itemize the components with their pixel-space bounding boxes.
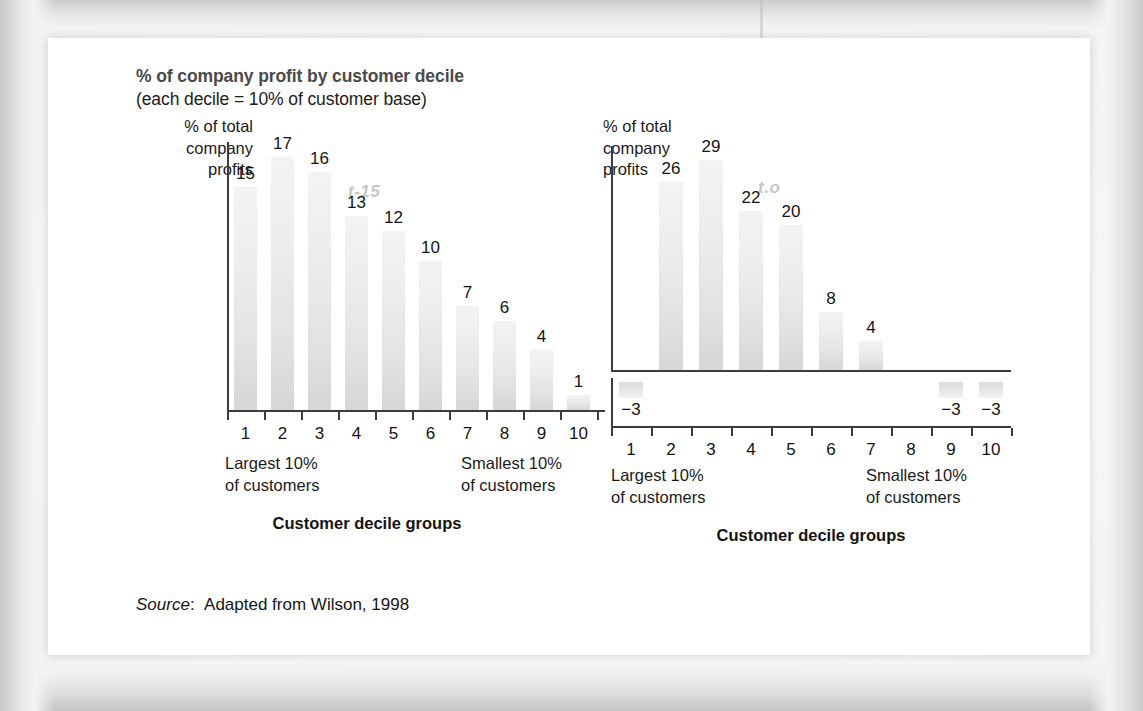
bar-slot: 1	[560, 142, 597, 410]
bar: 15	[234, 187, 257, 410]
caption-smallest-line-1: Smallest 10%	[461, 452, 562, 474]
axis-tick	[227, 412, 229, 420]
category-label: 3	[301, 424, 338, 444]
category-label: 3	[691, 440, 731, 460]
category-label: 8	[891, 440, 931, 460]
category-label: 1	[611, 440, 651, 460]
caption-largest-line-1: Largest 10%	[225, 452, 319, 474]
caption-smallest-left: Smallest 10% of customers	[461, 452, 562, 496]
bar: −3	[979, 382, 1004, 398]
axis-tick	[771, 428, 773, 436]
category-label: 4	[338, 424, 375, 444]
plot-area-left: 1517161312107641 12345678910	[227, 142, 597, 410]
caption-largest-left: Largest 10% of customers	[225, 452, 319, 496]
bar: 29	[699, 160, 724, 370]
bar-value-label: 1	[574, 372, 583, 392]
axis-tick	[338, 412, 340, 420]
category-label: 10	[560, 424, 597, 444]
bar-value-label: 13	[347, 193, 366, 213]
bar-series-right-positive: 2629222084	[611, 146, 1011, 370]
bar-value-label: 17	[273, 134, 292, 154]
bar-value-label: 8	[826, 289, 835, 309]
tick-row-right	[611, 428, 1011, 436]
axis-tick	[264, 412, 266, 420]
bar-slot: −3	[971, 372, 1011, 398]
category-label: 9	[523, 424, 560, 444]
category-label: 10	[971, 440, 1011, 460]
heading-line-2: (each decile = 10% of customer base)	[136, 88, 596, 111]
source-text: Adapted from Wilson, 1998	[204, 595, 409, 614]
caption-largest-line-2: of customers	[611, 486, 705, 508]
bar-slot	[891, 372, 931, 398]
category-label: 5	[771, 440, 811, 460]
bar-value-label: 6	[500, 298, 509, 318]
axis-tick	[811, 428, 813, 436]
axis-tick	[971, 428, 973, 436]
bar-slot: 12	[375, 142, 412, 410]
caption-smallest-line-1: Smallest 10%	[866, 464, 967, 486]
bar-slot: 8	[811, 146, 851, 370]
axis-tick	[560, 412, 562, 420]
bar-slot: −3	[611, 372, 651, 398]
bar-value-label: 26	[662, 159, 681, 179]
bar-slot	[811, 372, 851, 398]
bar: 4	[859, 341, 884, 370]
bar-value-label: 15	[236, 164, 255, 184]
bar-value-label: 29	[702, 137, 721, 157]
caption-largest-right: Largest 10% of customers	[611, 464, 705, 508]
bar: 22	[739, 211, 764, 370]
bar-slot	[931, 146, 971, 370]
axis-tick	[597, 412, 599, 420]
bar-value-label: −3	[981, 400, 1000, 420]
bar: 26	[659, 182, 684, 370]
bar: 17	[271, 157, 294, 410]
axis-tick	[851, 428, 853, 436]
bar-value-label: 16	[310, 149, 329, 169]
category-labels-right: 12345678910	[611, 440, 1011, 460]
bar-slot	[771, 372, 811, 398]
axis-tick	[301, 412, 303, 420]
category-labels-left: 12345678910	[227, 424, 597, 444]
bar-value-label: 4	[866, 318, 875, 338]
plot-area-right: 2629222084 −3−3−3 12345678910	[611, 146, 1011, 446]
axis-tick	[931, 428, 933, 436]
bar-slot: 13	[338, 142, 375, 410]
bar-slot	[971, 146, 1011, 370]
bar-slot	[851, 372, 891, 398]
bar: 13	[345, 216, 368, 410]
category-label: 2	[264, 424, 301, 444]
bar-value-label: 20	[782, 202, 801, 222]
category-label: 5	[375, 424, 412, 444]
axis-tick	[1011, 428, 1013, 436]
category-label: 4	[731, 440, 771, 460]
axis-tick	[412, 412, 414, 420]
category-label: 7	[851, 440, 891, 460]
axis-tick	[731, 428, 733, 436]
bar-value-label: −3	[941, 400, 960, 420]
caption-largest-line-1: Largest 10%	[611, 464, 705, 486]
category-label: 1	[227, 424, 264, 444]
bar-slot: 4	[523, 142, 560, 410]
bar-slot: 15	[227, 142, 264, 410]
source-separator: :	[190, 595, 195, 614]
axis-tick	[449, 412, 451, 420]
bar: 1	[567, 395, 590, 410]
caption-smallest-right: Smallest 10% of customers	[866, 464, 967, 508]
bar: 12	[382, 231, 405, 410]
source-label: Source	[136, 595, 190, 614]
axis-tick	[691, 428, 693, 436]
axis-tick	[375, 412, 377, 420]
category-label: 7	[449, 424, 486, 444]
bar-slot	[691, 372, 731, 398]
bar-slot	[731, 372, 771, 398]
bar-slot: 17	[264, 142, 301, 410]
bar-slot: 29	[691, 146, 731, 370]
source-note: Source: Adapted from Wilson, 1998	[136, 595, 409, 615]
x-axis-title-left: Customer decile groups	[177, 514, 557, 533]
bar: −3	[619, 382, 644, 398]
figure-page: % of company profit by customer decile (…	[48, 38, 1090, 655]
bar-slot: −3	[931, 372, 971, 398]
category-label: 9	[931, 440, 971, 460]
bar: 20	[779, 225, 804, 370]
bar-slot: 20	[771, 146, 811, 370]
